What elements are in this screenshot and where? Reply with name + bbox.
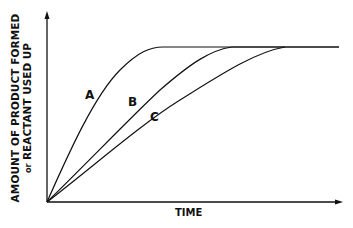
curve-a-label: A	[85, 88, 94, 102]
chart-canvas	[0, 0, 353, 228]
y-axis-label-line2: or REACTANT USED UP	[21, 14, 35, 203]
y-axis-label-line2-text: REACTANT USED UP	[21, 43, 33, 160]
curve-b	[47, 47, 339, 202]
y-axis-label-line1: AMOUNT OF PRODUCT FORMED	[9, 14, 21, 203]
curve-a	[47, 47, 339, 202]
curve-c	[47, 47, 285, 202]
curve-b-label: B	[128, 95, 137, 109]
x-axis-label: TIME	[175, 207, 202, 218]
x-axis-arrow-icon	[335, 200, 343, 205]
reaction-rate-chart: AMOUNT OF PRODUCT FORMED or REACTANT USE…	[0, 0, 353, 228]
y-axis-arrow-icon	[45, 11, 50, 19]
y-axis-label-or: or	[24, 164, 33, 173]
y-axis-label: AMOUNT OF PRODUCT FORMED or REACTANT USE…	[0, 14, 44, 202]
curve-c-label: C	[150, 110, 159, 124]
